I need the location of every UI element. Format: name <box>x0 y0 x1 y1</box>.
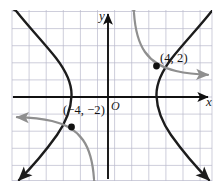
point-marker-4-2 <box>153 63 160 70</box>
point-label-neg4-neg2: (−4, −2) <box>63 104 105 117</box>
coordinate-plane-svg <box>0 0 221 195</box>
point-label-4-2: (4, 2) <box>160 52 188 65</box>
origin-label: O <box>111 100 120 112</box>
x-axis-label: x <box>206 95 212 108</box>
y-axis-label: y <box>99 9 105 22</box>
graph-figure-container: y x O (4, 2) (−4, −2) <box>0 0 221 195</box>
point-marker-neg4-neg2 <box>68 124 75 131</box>
